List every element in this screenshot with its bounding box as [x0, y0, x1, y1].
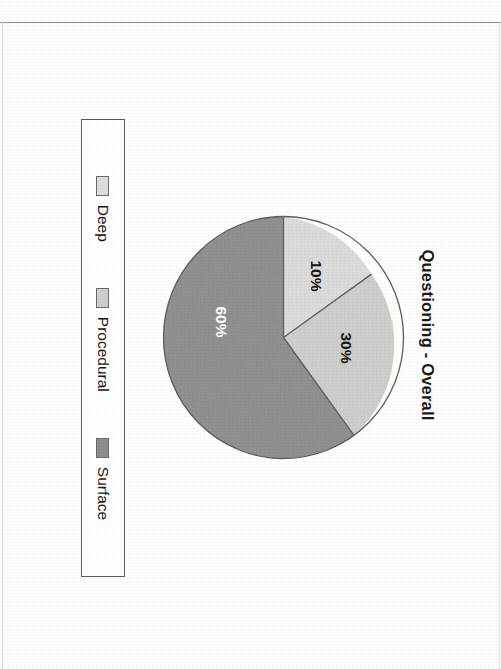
legend-item-surface[interactable]: Surface	[94, 437, 112, 519]
legend-swatch-deep	[96, 175, 109, 195]
legend-item-deep[interactable]: Deep	[94, 175, 112, 241]
pie-label-surface: 60%	[212, 306, 229, 337]
page-left-rule	[2, 22, 3, 669]
chart-figure: Questioning - Overall	[51, 75, 451, 595]
pie-chart: 60% 30% 10%	[162, 214, 405, 461]
legend-label-surface: Surface	[94, 466, 112, 519]
legend-label-deep: Deep	[94, 204, 112, 241]
chart-legend: Deep Procedural Surface	[81, 119, 125, 577]
pie-label-deep: 10%	[307, 260, 324, 291]
page-right-rule	[499, 22, 500, 669]
legend-item-procedural[interactable]: Procedural	[94, 287, 112, 391]
chart-title: Questioning - Overall	[418, 75, 437, 595]
pie-label-procedural: 30%	[337, 332, 354, 363]
legend-label-procedural: Procedural	[94, 316, 112, 391]
scanned-page: Questioning - Overall	[0, 0, 501, 669]
pie-svg: 60% 30% 10%	[162, 214, 405, 461]
page-top-rule	[0, 22, 501, 23]
legend-swatch-surface	[96, 437, 109, 457]
legend-swatch-procedural	[96, 287, 109, 307]
